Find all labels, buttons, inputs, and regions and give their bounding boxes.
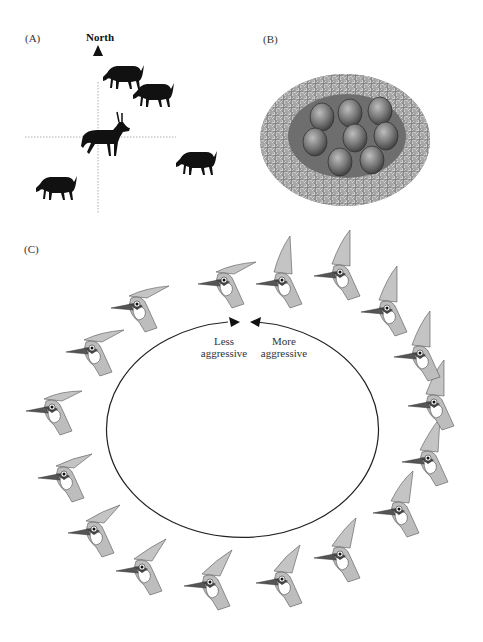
north-arrow-icon (93, 45, 103, 56)
more-label-line1: More (256, 335, 312, 347)
grazing-animal (176, 151, 217, 175)
grazing-animal (103, 65, 144, 89)
arrow-right-icon (250, 317, 261, 327)
north-label: North (86, 31, 114, 43)
grazing-animal (36, 176, 77, 200)
arrow-left-icon (229, 317, 240, 327)
more-aggressive-label: More aggressive (256, 335, 312, 359)
panel-b-label: (B) (263, 33, 278, 45)
horned-male-animal (81, 112, 130, 156)
panel-c (26, 230, 454, 610)
less-aggressive-label: Less aggressive (196, 335, 252, 359)
more-label-line2: aggressive (256, 347, 312, 359)
panel-b-nest (260, 74, 430, 206)
less-label-line2: aggressive (196, 347, 252, 359)
figure-canvas (0, 0, 483, 642)
panel-a (25, 45, 217, 214)
jay-heads (26, 230, 454, 610)
less-label-line1: Less (196, 335, 252, 347)
panel-a-label: (A) (25, 32, 40, 44)
panel-c-label: (C) (24, 243, 39, 255)
